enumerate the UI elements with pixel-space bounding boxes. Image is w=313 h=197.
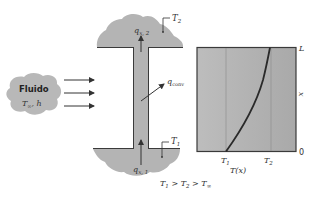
y-tick-L: L <box>298 44 304 53</box>
fin-diagram: Fluido T∞, h qx, 2 T2 qx, 1 T1 <box>0 0 313 197</box>
temperature-profile-chart <box>197 48 296 152</box>
fluid-title: Fluido <box>19 84 49 94</box>
temperature-condition: T1 > T2 > T∞ <box>160 179 211 189</box>
fluid-params: T∞, h <box>22 99 42 109</box>
x-tick-t1: T1 <box>221 156 230 166</box>
svg-text:T∞, h: T∞, h <box>22 99 42 109</box>
q-conv-label: qconv <box>167 77 184 87</box>
y-tick-0: 0 <box>299 148 304 157</box>
t1-label: T1 <box>171 136 180 147</box>
chart-frame <box>197 48 296 152</box>
x-tick-t2: T2 <box>264 156 273 166</box>
flow-arrows <box>64 80 94 106</box>
y-axis-label: x <box>297 92 306 97</box>
x-axis-label: T(x) <box>230 166 246 175</box>
fin-stem <box>133 47 149 149</box>
t2-label: T2 <box>172 13 182 24</box>
